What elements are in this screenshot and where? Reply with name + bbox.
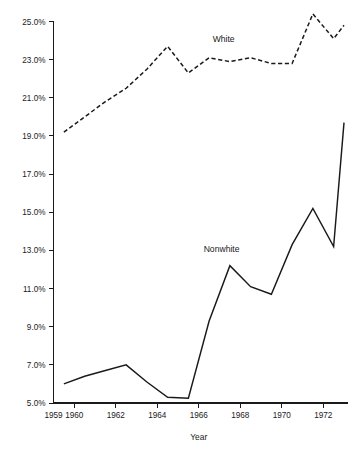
- y-axis-tick-label: 9.0%: [27, 323, 46, 332]
- x-axis-tick-label: 1960: [65, 411, 84, 420]
- y-axis-tick-label: 13.0%: [22, 246, 45, 255]
- x-axis-title: Year: [190, 432, 207, 442]
- series-label-white: White: [213, 34, 235, 44]
- line-chart: 25.0%23.0%21.0%19.0%17.0%15.0%13.0%11.0%…: [0, 0, 351, 454]
- x-axis-tick-group: 19591960196219641966196819701972: [44, 403, 332, 420]
- x-axis-tick-label: 1959: [44, 411, 63, 420]
- y-axis-tick-label: 19.0%: [22, 132, 45, 141]
- y-axis-tick-label: 21.0%: [22, 94, 45, 103]
- x-axis-tick-label: 1972: [314, 411, 333, 420]
- series-label-nonwhite: Nonwhite: [204, 244, 240, 254]
- x-axis-tick-label: 1970: [273, 411, 292, 420]
- series-line-white: [64, 14, 344, 132]
- x-axis-tick-label: 1966: [190, 411, 209, 420]
- x-axis-tick-label: 1962: [107, 411, 126, 420]
- y-axis-tick-label: 25.0%: [22, 18, 45, 27]
- y-axis-tick-label: 7.0%: [27, 361, 46, 370]
- y-axis-tick-label: 15.0%: [22, 208, 45, 217]
- y-axis-tick-label: 23.0%: [22, 56, 45, 65]
- series-line-nonwhite: [64, 123, 344, 399]
- y-axis-tick-group: 25.0%23.0%21.0%19.0%17.0%15.0%13.0%11.0%…: [22, 18, 53, 409]
- chart-container: 25.0%23.0%21.0%19.0%17.0%15.0%13.0%11.0%…: [0, 0, 351, 454]
- y-axis-tick-label: 17.0%: [22, 170, 45, 179]
- x-axis-tick-label: 1964: [148, 411, 167, 420]
- x-axis-tick-label: 1968: [231, 411, 250, 420]
- y-axis-tick-label: 5.0%: [27, 399, 46, 408]
- y-axis-tick-label: 11.0%: [23, 285, 46, 294]
